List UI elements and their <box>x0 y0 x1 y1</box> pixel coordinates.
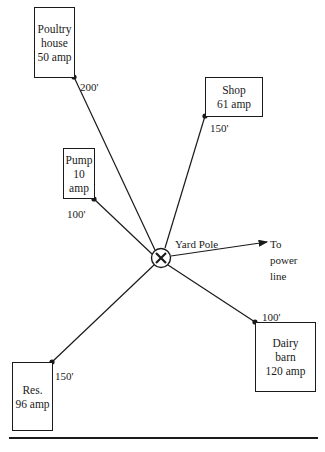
building-load: 50 amp <box>37 50 71 64</box>
building-name: house <box>41 36 68 50</box>
yard-pole-label: Yard Pole <box>175 238 218 250</box>
building-name: barn <box>275 350 295 364</box>
feed-text-line3: line <box>270 268 298 284</box>
distance-res: 150' <box>55 370 73 382</box>
building-load: 61 amp <box>217 97 251 111</box>
distance-shop: 150' <box>210 122 228 134</box>
feed-text-line1: To <box>270 236 298 252</box>
building-load: 96 amp <box>15 397 49 411</box>
building-pump: Pump 10 amp <box>63 148 95 199</box>
building-load: 120 amp <box>266 364 306 378</box>
yard-pole-icon <box>152 249 171 268</box>
building-name: Shop <box>222 83 246 97</box>
building-shop: Shop 61 amp <box>205 77 263 117</box>
building-load: 10 <box>73 167 85 181</box>
building-poultry-house: Poultry house 50 amp <box>34 7 75 78</box>
building-name: Res. <box>22 383 42 397</box>
wire-dairy <box>168 265 255 322</box>
building-name: Dairy <box>272 336 298 350</box>
feed-text-line2: power <box>270 252 298 268</box>
building-residence: Res. 96 amp <box>12 362 53 431</box>
building-name: Poultry <box>38 22 72 36</box>
distance-pump: 100' <box>67 208 85 220</box>
wire-shop <box>165 116 205 248</box>
wire-pump <box>94 199 152 254</box>
building-load-unit: amp <box>69 181 89 195</box>
building-dairy-barn: Dairy barn 120 amp <box>255 322 316 392</box>
building-name: Pump <box>66 153 93 167</box>
wire-res <box>52 265 154 362</box>
power-line-label: To power line <box>270 236 298 284</box>
distance-poultry: 200' <box>80 81 98 93</box>
bottom-rule <box>9 437 318 439</box>
